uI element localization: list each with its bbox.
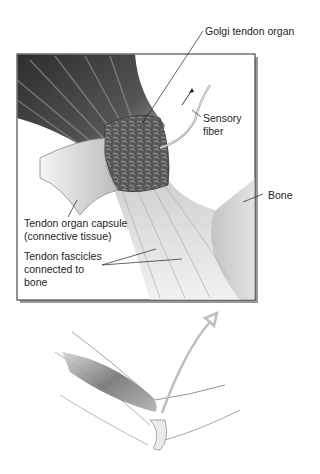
elbow-joint [150, 420, 167, 450]
label-bone: Bone [268, 189, 293, 202]
label-golgi-tendon-organ: Golgi tendon organ [205, 25, 294, 38]
label-fascicles-2: connected to [24, 263, 84, 276]
label-sensory-fiber-2: fiber [203, 125, 223, 138]
label-capsule-2: (connective tissue) [24, 230, 112, 243]
label-fascicles-1: Tendon fascicles [24, 250, 102, 263]
arm-sketch [55, 313, 240, 450]
label-sensory-fiber-1: Sensory [203, 112, 242, 125]
label-fascicles-3: bone [24, 276, 47, 289]
label-capsule-1: Tendon organ capsule [24, 217, 127, 230]
forearm-outline [155, 385, 225, 400]
golgi-organ-body [104, 115, 169, 191]
